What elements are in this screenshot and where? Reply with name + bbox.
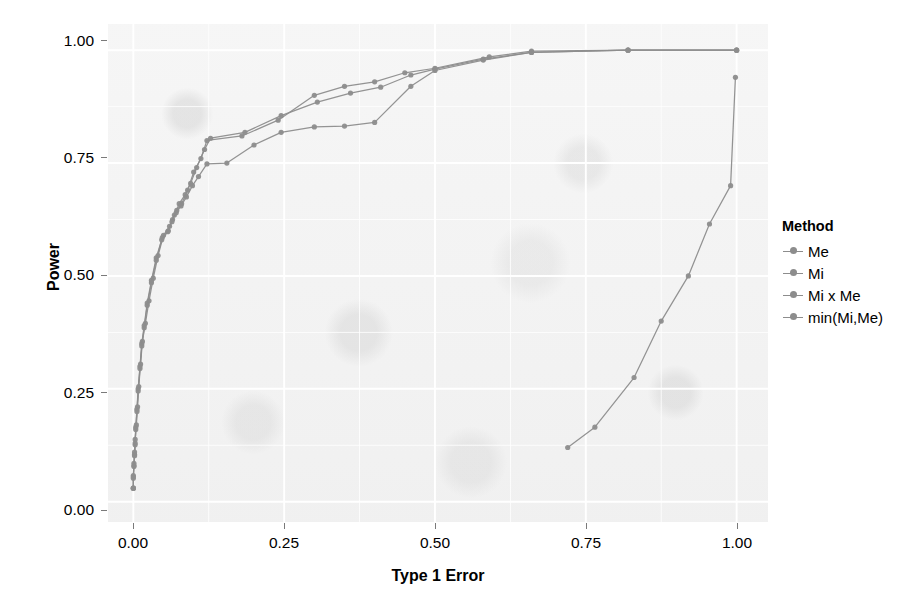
x-axis-title: Type 1 Error bbox=[108, 567, 768, 585]
x-tick-mark bbox=[737, 523, 738, 529]
x-tick-label: 0.00 bbox=[98, 534, 168, 552]
y-tick-mark bbox=[101, 275, 107, 276]
legend-key-icon bbox=[782, 241, 804, 261]
grid-major bbox=[108, 24, 768, 522]
series-3 bbox=[565, 75, 738, 450]
y-tick-label: 0.25 bbox=[38, 384, 94, 402]
legend-items: MeMiMi x Memin(Mi,Me) bbox=[782, 240, 897, 328]
y-tick-label: 0.75 bbox=[38, 149, 94, 167]
x-tick-label: 0.25 bbox=[249, 534, 319, 552]
legend-label: Me bbox=[808, 243, 829, 260]
legend-key-icon bbox=[782, 263, 804, 283]
legend-title: Method bbox=[782, 218, 897, 234]
y-tick-mark bbox=[101, 510, 107, 511]
legend-item-3[interactable]: min(Mi,Me) bbox=[782, 306, 897, 328]
x-tick-mark bbox=[435, 523, 436, 529]
x-tick-mark bbox=[586, 523, 587, 529]
x-tick-label: 0.50 bbox=[400, 534, 470, 552]
x-tick-label: 1.00 bbox=[702, 534, 772, 552]
legend-item-0[interactable]: Me bbox=[782, 240, 897, 262]
plot-panel bbox=[108, 24, 768, 522]
y-tick-mark bbox=[101, 392, 107, 393]
x-tick-label: 0.75 bbox=[551, 534, 621, 552]
legend-item-1[interactable]: Mi bbox=[782, 262, 897, 284]
legend-label: Mi bbox=[808, 265, 824, 282]
grid-minor bbox=[108, 24, 768, 522]
plot-svg bbox=[108, 24, 768, 522]
x-tick-mark bbox=[133, 523, 134, 529]
legend-key-icon bbox=[782, 285, 804, 305]
legend: Method MeMiMi x Memin(Mi,Me) bbox=[782, 218, 897, 328]
legend-item-2[interactable]: Mi x Me bbox=[782, 284, 897, 306]
legend-label: min(Mi,Me) bbox=[808, 309, 883, 326]
y-axis-title: Power bbox=[45, 207, 63, 327]
y-tick-mark bbox=[101, 157, 107, 158]
y-tick-mark bbox=[101, 40, 107, 41]
legend-label: Mi x Me bbox=[808, 287, 861, 304]
x-tick-mark bbox=[284, 523, 285, 529]
chart-root: 1.00 0.75 0.50 0.25 0.00 0.00 0.25 0.50 … bbox=[0, 0, 901, 616]
y-tick-label: 1.00 bbox=[38, 32, 94, 50]
y-tick-label: 0.00 bbox=[38, 501, 94, 519]
legend-key-icon bbox=[782, 307, 804, 327]
